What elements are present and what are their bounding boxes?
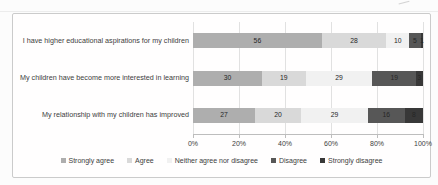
x-tick-mark — [377, 135, 378, 138]
x-tick-mark — [331, 135, 332, 138]
bar-value-label: 28 — [350, 37, 358, 44]
x-tick-mark — [239, 135, 240, 138]
category-label: My relationship with my children has imp… — [15, 111, 189, 119]
bar-value-label: 19 — [280, 75, 288, 82]
bar-value-label: 29 — [335, 75, 343, 82]
legend-marker-icon — [320, 158, 325, 163]
legend: Strongly agreeAgreeNeither agree nor dis… — [13, 153, 430, 167]
legend-item: Agree — [127, 157, 154, 164]
bar-segment: 16 — [368, 108, 405, 123]
bar-row: 56281051 — [193, 33, 423, 48]
x-tick-label: 100% — [414, 140, 432, 147]
bar-segment: 29 — [306, 71, 373, 86]
x-axis: 0%20%40%60%80%100% — [193, 135, 423, 153]
bar-segment: 1 — [421, 33, 423, 48]
legend-marker-icon — [127, 158, 132, 163]
x-tick-label: 0% — [188, 140, 198, 147]
bar-value-label: 10 — [394, 37, 402, 44]
plot-area: 56281051301929193272029168 — [193, 22, 423, 134]
x-tick-label: 20% — [232, 140, 246, 147]
legend-item: Strongly disagree — [320, 157, 382, 164]
legend-item: Strongly agree — [61, 157, 115, 164]
x-tick-label: 60% — [324, 140, 338, 147]
bar-segment: 27 — [193, 108, 255, 123]
bar-value-label: 1 — [420, 37, 424, 44]
bar-segment: 20 — [255, 108, 301, 123]
bar-segment: 19 — [372, 71, 416, 86]
bar-row: 301929193 — [193, 71, 423, 86]
legend-label: Strongly disagree — [328, 157, 382, 164]
bar-segment: 3 — [416, 71, 423, 86]
bar-segment: 30 — [193, 71, 262, 86]
legend-label: Disagree — [279, 157, 307, 164]
bar-segment: 28 — [322, 33, 386, 48]
legend-label: Agree — [135, 157, 154, 164]
bar-value-label: 56 — [254, 37, 262, 44]
scan-artifact-mark — [399, 1, 411, 9]
legend-label: Neither agree nor disagree — [175, 157, 258, 164]
bar-value-label: 27 — [220, 112, 228, 119]
legend-marker-icon — [167, 158, 172, 163]
bar-value-label: 29 — [331, 112, 339, 119]
scan-artifact-line — [0, 11, 438, 12]
bar-value-label: 30 — [224, 75, 232, 82]
legend-item: Disagree — [271, 157, 307, 164]
x-tick-label: 80% — [370, 140, 384, 147]
bar-row: 272029168 — [193, 108, 423, 123]
bar-value-label: 3 — [418, 75, 422, 82]
bar-segment: 8 — [405, 108, 423, 123]
bar-segment: 29 — [301, 108, 368, 123]
bar-segment: 19 — [262, 71, 306, 86]
bar-value-label: 19 — [390, 75, 398, 82]
bar-value-label: 20 — [274, 112, 282, 119]
bar-segment: 56 — [193, 33, 322, 48]
x-tick-mark — [193, 135, 194, 138]
category-label: I have higher educational aspirations fo… — [15, 37, 189, 45]
legend-marker-icon — [271, 158, 276, 163]
category-label: My children have become more interested … — [15, 74, 189, 82]
legend-marker-icon — [61, 158, 66, 163]
x-tick-label: 40% — [278, 140, 292, 147]
bar-value-label: 8 — [412, 112, 416, 119]
legend-label: Strongly agree — [69, 157, 115, 164]
chart-frame: 56281051301929193272029168 I have higher… — [12, 13, 431, 178]
bar-value-label: 16 — [382, 112, 390, 119]
x-tick-mark — [423, 135, 424, 138]
bar-value-label: 5 — [413, 37, 417, 44]
legend-item: Neither agree nor disagree — [167, 157, 258, 164]
bar-segment: 10 — [386, 33, 409, 48]
x-tick-mark — [285, 135, 286, 138]
